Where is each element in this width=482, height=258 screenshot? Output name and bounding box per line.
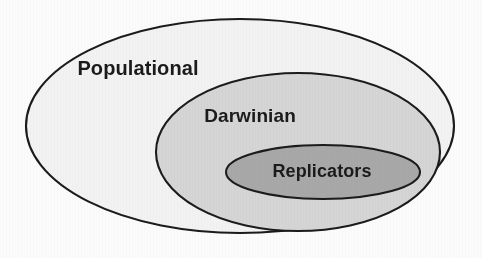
label-populational: Populational	[77, 57, 198, 79]
label-replicators: Replicators	[272, 161, 371, 181]
nested-set-diagram: Populational Darwinian Replicators	[0, 0, 482, 258]
label-darwinian: Darwinian	[204, 105, 296, 126]
venn-diagram-canvas: Populational Darwinian Replicators	[0, 0, 482, 258]
